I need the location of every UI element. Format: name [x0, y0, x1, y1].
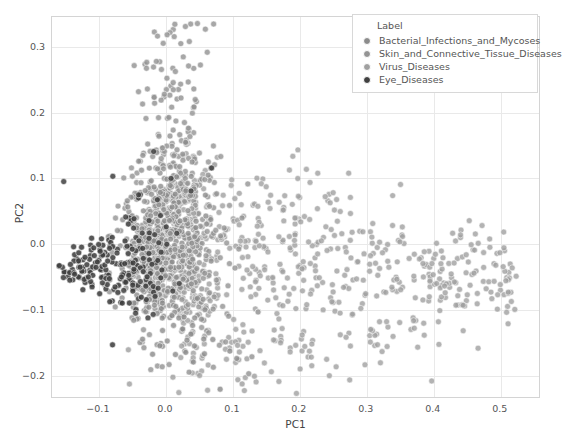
legend-item-2[interactable]: Virus_Diseases	[360, 60, 530, 73]
data-point	[308, 291, 314, 297]
data-point	[241, 388, 247, 394]
legend-marker-icon	[363, 37, 371, 45]
data-point	[131, 225, 137, 231]
data-point	[234, 356, 240, 362]
data-point	[181, 314, 187, 320]
data-point	[140, 269, 146, 275]
data-point	[131, 266, 137, 272]
data-point	[166, 362, 172, 368]
data-point	[339, 231, 345, 237]
data-point	[397, 239, 403, 245]
data-point	[224, 240, 230, 246]
data-point	[271, 287, 277, 293]
data-point	[161, 207, 167, 213]
data-point	[172, 191, 178, 197]
data-point	[179, 244, 185, 250]
data-point	[173, 118, 179, 124]
data-point	[367, 339, 373, 345]
data-point	[257, 348, 263, 354]
data-point	[513, 273, 519, 279]
data-point	[508, 299, 514, 305]
data-point	[337, 332, 343, 338]
data-point	[505, 321, 511, 327]
data-point	[238, 238, 244, 244]
data-point	[220, 303, 226, 309]
data-point	[322, 194, 328, 200]
data-point	[158, 275, 164, 281]
data-point	[121, 175, 127, 181]
data-point	[197, 62, 203, 68]
data-point	[184, 337, 190, 343]
data-point	[394, 276, 400, 282]
data-point	[327, 200, 333, 206]
data-point	[354, 276, 360, 282]
data-point	[390, 333, 396, 339]
data-point	[142, 188, 148, 194]
data-point	[295, 176, 301, 182]
data-point	[244, 267, 250, 273]
data-point	[453, 302, 459, 308]
data-point	[236, 222, 242, 228]
data-point	[324, 356, 330, 362]
data-point	[505, 289, 511, 295]
data-point	[223, 339, 229, 345]
data-point	[239, 255, 245, 261]
legend-item-0[interactable]: Bacterial_Infections_and_Mycoses	[360, 34, 530, 47]
data-point	[438, 248, 444, 254]
data-point	[330, 289, 336, 295]
data-point	[168, 175, 174, 181]
data-point	[360, 277, 366, 283]
data-point	[190, 288, 196, 294]
data-point	[224, 292, 230, 298]
data-point	[185, 79, 191, 85]
data-point	[201, 351, 207, 357]
data-point	[314, 283, 320, 289]
data-point	[509, 265, 515, 271]
data-point	[141, 345, 147, 351]
data-point	[286, 291, 292, 297]
data-point	[149, 261, 155, 267]
data-point	[265, 249, 271, 255]
data-point	[421, 332, 427, 338]
data-point	[217, 386, 223, 392]
data-point	[474, 290, 480, 296]
data-point	[122, 261, 128, 267]
data-point	[187, 134, 193, 140]
data-point	[372, 260, 378, 266]
data-point	[293, 342, 299, 348]
data-point	[151, 149, 157, 155]
data-point	[180, 157, 186, 163]
legend-item-3[interactable]: Eye_Diseases	[360, 73, 530, 86]
data-point	[105, 258, 111, 264]
data-point	[96, 242, 102, 248]
legend-item-label: Skin_and_Connective_Tissue_Diseases	[379, 47, 562, 60]
data-point	[170, 80, 176, 86]
data-point	[186, 39, 192, 45]
data-point	[125, 347, 131, 353]
y-tick-label: 0.3	[4, 40, 45, 51]
data-point	[440, 255, 446, 261]
data-point	[390, 193, 396, 199]
legend-item-1[interactable]: Skin_and_Connective_Tissue_Diseases	[360, 47, 530, 60]
data-point	[334, 218, 340, 224]
data-point	[189, 159, 195, 165]
data-point	[204, 49, 210, 55]
data-point	[197, 373, 203, 379]
data-point	[171, 322, 177, 328]
data-point	[123, 279, 129, 285]
data-point	[280, 207, 286, 213]
data-point	[188, 188, 194, 194]
data-point	[223, 356, 229, 362]
data-point	[293, 390, 299, 396]
data-point	[451, 279, 457, 285]
data-point	[202, 270, 208, 276]
data-point	[84, 262, 90, 268]
data-point	[306, 348, 312, 354]
data-point	[130, 260, 136, 266]
data-point	[213, 271, 219, 277]
data-point	[326, 373, 332, 379]
data-point	[472, 247, 478, 253]
data-point	[205, 159, 211, 165]
data-point	[421, 320, 427, 326]
data-point	[255, 203, 261, 209]
